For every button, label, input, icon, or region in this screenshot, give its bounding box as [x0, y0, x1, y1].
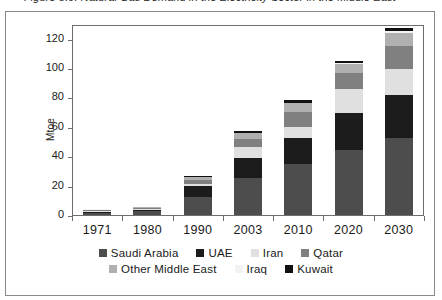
x-axis-tick-mark [223, 216, 224, 221]
legend-swatch-icon [251, 249, 259, 257]
y-axis-tick-label: 120 [46, 32, 64, 44]
bar-segment-saudi-arabia [284, 164, 312, 215]
legend-item-saudi-arabia[interactable]: Saudi Arabia [99, 247, 179, 259]
bar-segment-saudi-arabia [184, 197, 212, 215]
legend-item-qatar[interactable]: Qatar [301, 247, 343, 259]
bar-segment-other-middle-east [335, 64, 363, 73]
bar-segment-iran [335, 89, 363, 113]
bar-segment-other-middle-east [284, 103, 312, 112]
x-axis-tick-mark [122, 216, 123, 221]
x-axis-tick-mark [323, 216, 324, 221]
legend-label: Other Middle East [121, 263, 216, 275]
legend-row-secondary: Other Middle EastIraqKuwait [6, 261, 436, 277]
bar-segment-qatar [284, 112, 312, 127]
bar-segment-other-middle-east [385, 33, 413, 46]
bar-segment-iran [385, 69, 413, 95]
bar-2020 [335, 61, 363, 215]
x-axis-tick-mark [72, 216, 73, 221]
y-axis-tick-label: 60 [52, 120, 64, 132]
chart-legend: Saudi ArabiaUAEIranQatar Other Middle Ea… [6, 245, 436, 277]
legend-item-kuwait[interactable]: Kuwait [285, 263, 333, 275]
bar-segment-uae [335, 113, 363, 150]
legend-swatch-icon [285, 265, 293, 273]
bar-segment-qatar [335, 73, 363, 89]
legend-label: UAE [208, 247, 232, 259]
legend-item-iran[interactable]: Iran [251, 247, 284, 259]
y-axis-tick-label: 40 [52, 149, 64, 161]
bar-2010 [284, 100, 312, 215]
bar-segment-uae [234, 158, 262, 178]
legend-row-primary: Saudi ArabiaUAEIranQatar [6, 245, 436, 261]
bar-1980 [133, 207, 161, 215]
legend-swatch-icon [235, 265, 243, 273]
legend-label: Iraq [247, 263, 268, 275]
legend-label: Kuwait [297, 263, 333, 275]
legend-swatch-icon [99, 249, 107, 257]
bar-segment-iran [234, 147, 262, 158]
y-axis-tick-label: 0 [58, 208, 64, 220]
y-axis-tick-label: 20 [52, 179, 64, 191]
legend-item-other-middle-east[interactable]: Other Middle East [109, 263, 216, 275]
y-axis-tick-label: 100 [46, 61, 64, 73]
bar-segment-uae [385, 95, 413, 138]
bar-2030 [385, 28, 413, 215]
bar-segment-saudi-arabia [133, 211, 161, 215]
bar-segment-uae [284, 138, 312, 164]
x-axis-tick-mark [424, 216, 425, 221]
legend-swatch-icon [196, 249, 204, 257]
figure-caption-strip: Figure 8.9: Natural Gas Demand in the El… [0, 0, 442, 9]
legend-item-iraq[interactable]: Iraq [235, 263, 268, 275]
bar-segment-saudi-arabia [385, 138, 413, 215]
bar-1990 [184, 176, 212, 215]
bar-segment-saudi-arabia [335, 150, 363, 215]
legend-label: Saudi Arabia [111, 247, 179, 259]
legend-item-uae[interactable]: UAE [196, 247, 232, 259]
y-axis-tick-label: 80 [52, 90, 64, 102]
legend-swatch-icon [109, 265, 117, 273]
bar-segment-iran [284, 127, 312, 138]
plot-area [72, 25, 424, 216]
bar-segment-saudi-arabia [234, 178, 262, 215]
bar-2003 [234, 131, 262, 215]
bar-1971 [83, 209, 111, 215]
legend-swatch-icon [301, 249, 309, 257]
x-axis-label-2030: 2030 [369, 223, 429, 237]
legend-label: Iran [263, 247, 284, 259]
bar-segment-uae [184, 186, 212, 198]
bar-segment-saudi-arabia [83, 213, 111, 215]
figure-frame: Mtoe 020406080100120 1971198019902003201… [5, 11, 435, 296]
x-axis-tick-mark [374, 216, 375, 221]
x-axis-tick-mark [173, 216, 174, 221]
bar-segment-qatar [385, 46, 413, 69]
x-axis-tick-mark [273, 216, 274, 221]
bar-segment-qatar [234, 139, 262, 148]
figure-caption: Figure 8.9: Natural Gas Demand in the El… [24, 0, 396, 3]
legend-label: Qatar [313, 247, 343, 259]
